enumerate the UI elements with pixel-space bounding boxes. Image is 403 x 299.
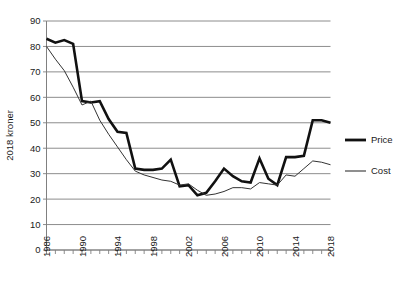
x-tick-label-1998: 1998: [148, 236, 159, 257]
legend: PriceCost: [345, 134, 393, 176]
gridlines-group: [47, 21, 331, 250]
x-tick-label-1986: 1986: [41, 236, 52, 257]
y-tick-label-30: 30: [30, 168, 41, 179]
x-tick-label-2010: 2010: [254, 236, 265, 257]
x-tick-label-1994: 1994: [112, 236, 123, 257]
x-tick-label-2002: 2002: [183, 236, 194, 257]
y-tick-label-0: 0: [35, 244, 40, 255]
x-axis-tick-labels: 198619901994199820022006201020142018: [41, 236, 336, 257]
legend-label-price: Price: [371, 134, 393, 145]
y-axis-title-group: 2018 kroner: [4, 110, 15, 161]
x-tick-label-2014: 2014: [290, 236, 301, 257]
x-tick-label-2018: 2018: [325, 236, 336, 257]
y-tick-label-70: 70: [30, 66, 41, 77]
y-tick-label-40: 40: [30, 143, 41, 154]
y-tickmarks-group: [43, 21, 47, 250]
line-chart: 0102030405060708090 19861990199419982002…: [0, 0, 403, 299]
y-tick-label-20: 20: [30, 194, 41, 205]
y-axis-title: 2018 kroner: [4, 110, 15, 161]
y-axis-tick-labels: 0102030405060708090: [30, 15, 41, 255]
y-tick-label-80: 80: [30, 41, 41, 52]
series-line-cost: [47, 46, 331, 195]
y-tick-label-60: 60: [30, 92, 41, 103]
x-tick-label-1990: 1990: [77, 236, 88, 257]
chart-container: 0102030405060708090 19861990199419982002…: [0, 0, 403, 299]
y-tick-label-90: 90: [30, 15, 41, 26]
data-series-layer: [47, 39, 331, 195]
legend-label-cost: Cost: [371, 165, 391, 176]
y-tick-label-50: 50: [30, 117, 41, 128]
x-tick-label-2006: 2006: [219, 236, 230, 257]
y-tick-label-10: 10: [30, 219, 41, 230]
series-line-price: [47, 39, 331, 195]
